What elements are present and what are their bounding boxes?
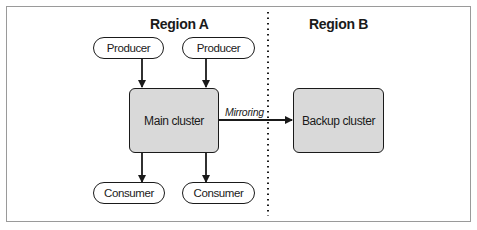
mirroring-label: Mirroring [225,106,264,118]
main-cluster-node: Main cluster [129,88,219,153]
consumer-1-node: Consumer [93,182,165,204]
producer-1-node: Producer [93,37,164,59]
backup-cluster-node: Backup cluster [293,88,384,153]
region-b-label: Region B [309,16,368,32]
producer-2-node: Producer [182,37,255,59]
region-a-label: Region A [150,16,209,32]
consumer-2-node: Consumer [182,182,255,204]
